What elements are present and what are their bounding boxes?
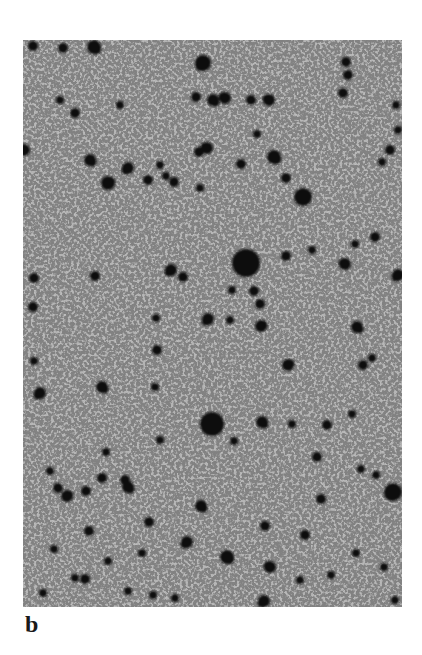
spot	[80, 574, 90, 584]
spot	[378, 158, 386, 166]
spot	[308, 246, 316, 254]
spot-lobe	[126, 485, 135, 494]
spot	[156, 436, 164, 444]
spot	[281, 251, 291, 261]
spot	[120, 475, 130, 485]
spot-lobe	[199, 504, 208, 513]
spot	[351, 240, 359, 248]
spot	[46, 467, 54, 475]
spot-lobe	[384, 487, 398, 501]
spot	[191, 92, 201, 102]
spot-lobe	[219, 93, 228, 102]
spot	[70, 108, 80, 118]
spot-lobe	[234, 252, 255, 273]
spot	[281, 173, 291, 183]
spot	[138, 549, 146, 557]
spot	[249, 286, 259, 296]
spot	[30, 357, 38, 365]
spot	[358, 360, 368, 370]
spot	[255, 299, 265, 309]
spot	[196, 184, 204, 192]
spot	[194, 147, 204, 157]
spot	[39, 589, 47, 597]
spot	[322, 420, 332, 430]
spot	[56, 96, 64, 104]
spot	[28, 41, 38, 51]
spot	[178, 272, 188, 282]
spot	[28, 302, 38, 312]
spot-lobe	[339, 259, 348, 268]
spot	[149, 591, 157, 599]
spot	[152, 314, 160, 322]
spot	[316, 494, 326, 504]
spot	[143, 175, 153, 185]
spot	[102, 448, 110, 456]
spot	[392, 101, 400, 109]
spot	[260, 521, 270, 531]
spot	[357, 465, 365, 473]
spot-lobe	[260, 420, 269, 429]
spot	[53, 483, 63, 493]
spot	[50, 545, 58, 553]
figure-image	[23, 40, 402, 607]
spot	[58, 43, 68, 53]
spot	[84, 526, 94, 536]
spot	[394, 126, 402, 134]
spot-lobe	[264, 562, 273, 571]
spot-lobe	[392, 273, 401, 282]
spot-lobe	[100, 385, 109, 394]
spot-lobe	[205, 417, 223, 435]
spot	[327, 571, 335, 579]
spot	[81, 486, 91, 496]
spot-lobe	[224, 554, 235, 565]
spot	[29, 273, 39, 283]
spot-lobe	[65, 491, 74, 500]
spot	[226, 316, 234, 324]
spot-lobe	[298, 189, 312, 203]
spot	[370, 232, 380, 242]
spot-lobe	[355, 325, 364, 334]
spot-lobe	[165, 268, 174, 277]
spot	[124, 587, 132, 595]
spot-field	[23, 40, 402, 607]
spot-lobe	[91, 44, 102, 55]
spot-lobe	[202, 317, 211, 326]
spot-lobe	[181, 540, 190, 549]
spot-lobe	[34, 391, 43, 400]
spot-lobe	[263, 95, 272, 104]
spot	[71, 574, 79, 582]
spot	[338, 88, 348, 98]
spot	[368, 354, 376, 362]
spot	[341, 57, 351, 67]
spot	[171, 594, 179, 602]
spot-lobe	[195, 59, 207, 71]
spot-lobe	[105, 177, 116, 188]
spot-lobe	[271, 154, 282, 165]
spot	[90, 271, 100, 281]
spot	[246, 95, 256, 105]
panel-label: b	[25, 612, 38, 636]
spot	[162, 172, 170, 180]
spot	[228, 286, 236, 294]
spot	[230, 437, 238, 445]
spot-lobe	[88, 158, 97, 167]
spot	[104, 557, 112, 565]
spot	[236, 159, 246, 169]
spot	[352, 549, 360, 557]
spot	[169, 177, 179, 187]
spot	[380, 563, 388, 571]
spot	[151, 383, 159, 391]
spot	[312, 452, 322, 462]
spot	[116, 101, 124, 109]
spot	[391, 596, 399, 604]
spot-lobe	[259, 321, 268, 330]
spot-lobe	[286, 360, 295, 369]
spot	[288, 420, 296, 428]
spot	[300, 530, 310, 540]
spot	[348, 410, 356, 418]
spot	[253, 130, 261, 138]
spot	[152, 345, 162, 355]
spot-lobe	[122, 166, 131, 175]
spot	[343, 70, 353, 80]
spot	[385, 145, 395, 155]
